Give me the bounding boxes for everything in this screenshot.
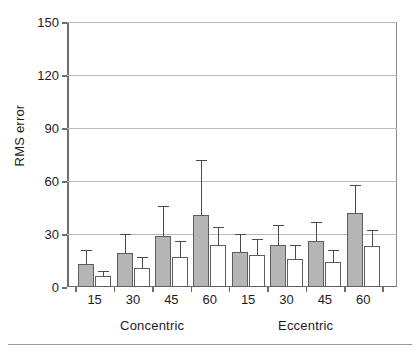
- bars-layer: [67, 22, 397, 287]
- bar: [232, 252, 248, 287]
- x-tick-label: 60: [190, 292, 230, 307]
- group-label: Concentric: [72, 318, 232, 333]
- x-tick-label: 15: [75, 292, 115, 307]
- error-bar-cap: [98, 271, 109, 272]
- x-tick-label: 15: [228, 292, 268, 307]
- bar: [117, 253, 133, 287]
- error-bar-cap: [175, 241, 186, 242]
- bar: [287, 259, 303, 287]
- bar: [78, 264, 94, 287]
- error-bar-cap: [120, 234, 131, 235]
- x-tick-label: 45: [151, 292, 191, 307]
- error-bar: [355, 185, 356, 213]
- bottom-divider: [8, 344, 412, 345]
- bar: [134, 268, 150, 287]
- bar: [347, 213, 363, 287]
- bar: [308, 241, 324, 287]
- error-bar: [142, 257, 143, 268]
- bar: [155, 236, 171, 287]
- x-tick-label: 30: [113, 292, 153, 307]
- y-tick-label: 150: [37, 16, 59, 29]
- error-bar-cap: [235, 234, 246, 235]
- error-bar-cap: [196, 160, 207, 161]
- error-bar-cap: [158, 206, 169, 207]
- bar: [95, 276, 111, 287]
- y-axis-title: RMS error: [12, 91, 27, 181]
- y-tick-mark: [62, 287, 67, 289]
- error-bar-cap: [273, 225, 284, 226]
- bar: [193, 215, 209, 287]
- error-bar-cap: [311, 222, 322, 223]
- error-bar-cap: [350, 185, 361, 186]
- error-bar: [201, 160, 202, 215]
- error-bar: [257, 239, 258, 255]
- x-tick-label: 45: [305, 292, 345, 307]
- error-bar-cap: [367, 230, 378, 231]
- error-bar: [86, 250, 87, 264]
- bar: [364, 246, 380, 287]
- error-bar: [278, 225, 279, 244]
- y-tick-label: 90: [45, 122, 59, 135]
- bar: [249, 255, 265, 287]
- y-tick-label: 60: [45, 175, 59, 188]
- error-bar-cap: [252, 239, 263, 240]
- error-bar: [240, 234, 241, 252]
- error-bar: [295, 245, 296, 259]
- error-bar: [372, 230, 373, 246]
- x-tick-label: 30: [266, 292, 306, 307]
- bar: [270, 245, 286, 287]
- error-bar: [333, 250, 334, 262]
- error-bar: [316, 222, 317, 241]
- chart-figure: RMS error 0306090120150 1530456015304560…: [0, 0, 420, 351]
- bar: [210, 245, 226, 287]
- plot-area: 0306090120150: [67, 22, 397, 287]
- error-bar-cap: [328, 250, 339, 251]
- bar: [325, 262, 341, 287]
- group-label: Eccentric: [226, 318, 386, 333]
- y-tick-label: 30: [45, 228, 59, 241]
- error-bar: [180, 241, 181, 257]
- error-bar-cap: [137, 257, 148, 258]
- error-bar-cap: [81, 250, 92, 251]
- x-tick-label: 60: [343, 292, 383, 307]
- error-bar-cap: [213, 227, 224, 228]
- error-bar: [125, 234, 126, 253]
- error-bar: [163, 206, 164, 236]
- error-bar: [218, 227, 219, 245]
- y-tick-label: 0: [52, 281, 59, 294]
- error-bar-cap: [290, 245, 301, 246]
- bar: [172, 257, 188, 287]
- y-tick-label: 120: [37, 69, 59, 82]
